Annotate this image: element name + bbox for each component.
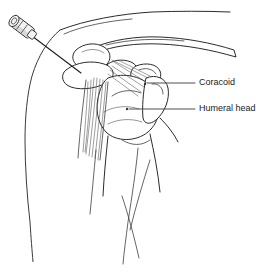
illustration-canvas: Coracoid Humeral head xyxy=(0,0,264,277)
greater-tuberosity xyxy=(143,76,169,123)
label-coracoid: Coracoid xyxy=(199,77,235,87)
label-humeral-head: Humeral head xyxy=(199,103,256,113)
needle-hub xyxy=(7,13,39,41)
humeral-shaft xyxy=(103,134,160,264)
clavicle xyxy=(95,37,236,57)
shoulder-injection-illustration: Coracoid Humeral head xyxy=(0,0,264,277)
